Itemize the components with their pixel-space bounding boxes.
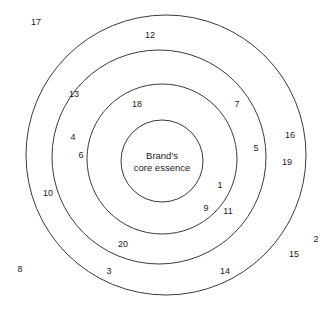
number-label: 1 xyxy=(217,180,222,190)
number-label: 18 xyxy=(132,99,142,109)
concentric-circles-diagram: Brand's core essence 1712131871645196110… xyxy=(0,0,332,320)
number-label: 3 xyxy=(106,266,111,276)
ring-second xyxy=(52,50,266,264)
number-label: 6 xyxy=(78,150,83,160)
number-label: 12 xyxy=(145,30,155,40)
number-label: 15 xyxy=(289,249,299,259)
number-label: 8 xyxy=(17,264,22,274)
number-label: 7 xyxy=(234,99,239,109)
number-label: 9 xyxy=(203,203,208,213)
number-label: 13 xyxy=(69,89,79,99)
ring-core xyxy=(121,120,203,202)
number-label: 10 xyxy=(43,188,53,198)
ring-third xyxy=(87,84,237,234)
number-label: 20 xyxy=(118,239,128,249)
number-label: 14 xyxy=(220,266,230,276)
number-label: 5 xyxy=(253,143,258,153)
number-label: 4 xyxy=(70,132,75,142)
number-label: 16 xyxy=(285,130,295,140)
number-label: 11 xyxy=(223,206,232,216)
number-label: 17 xyxy=(31,17,41,27)
number-label: 2 xyxy=(313,234,318,244)
ring-outer xyxy=(26,15,306,295)
number-label: 19 xyxy=(282,157,292,167)
